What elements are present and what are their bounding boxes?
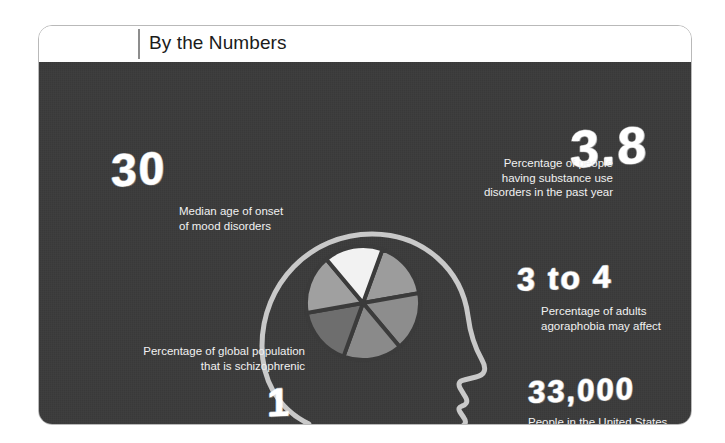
stat-value-suicides-per-year: 33,000: [528, 371, 635, 411]
stat-value-median-age-onset: 30: [111, 141, 166, 198]
header-divider-rule: [138, 29, 140, 59]
stat-caption-suicides-per-year: People in the United States who take the…: [528, 415, 691, 425]
stat-caption-global-schizophrenia: Percentage of global population that is …: [87, 344, 305, 373]
infographic-card: By the Numbers 30 Median age of onset of…: [38, 25, 692, 425]
pie-chart: [304, 244, 422, 362]
page-title: By the Numbers: [149, 32, 287, 54]
stats-panel: 30 Median age of onset of mood disorders…: [39, 62, 691, 425]
stat-value-agoraphobia-adults: 3 to 4: [517, 258, 613, 298]
stat-caption-median-age-onset: Median age of onset of mood disorders: [179, 204, 283, 233]
header-band: By the Numbers: [39, 26, 691, 62]
stat-value-global-schizophrenia: 1: [267, 379, 291, 425]
stat-caption-agoraphobia-adults: Percentage of adults agoraphobia may aff…: [541, 304, 661, 333]
stat-caption-substance-use-disorders: Percentage of people having substance us…: [453, 156, 613, 200]
